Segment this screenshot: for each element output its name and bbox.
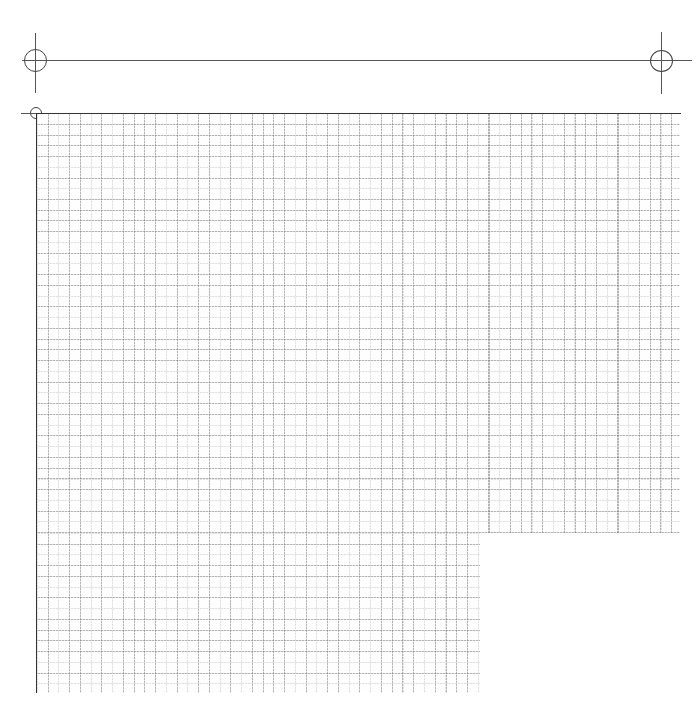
grid-left-border — [36, 113, 37, 693]
registration-mark-top-right-icon — [650, 50, 673, 72]
origin-tick — [21, 113, 37, 114]
grid-top-border — [37, 113, 681, 114]
grid-upper — [37, 113, 680, 533]
grid-lower — [37, 533, 480, 693]
registration-mark-top-left-icon — [24, 49, 47, 72]
top-rule — [22, 60, 692, 61]
